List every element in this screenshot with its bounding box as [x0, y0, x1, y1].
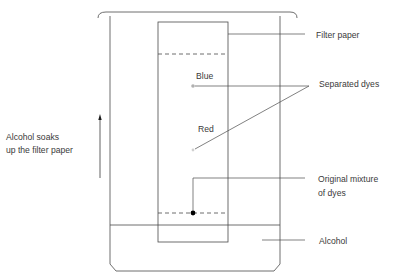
chromatography-diagram: Blue Red Filter paper Separated dyes Ori…: [0, 0, 402, 275]
red-label: Red: [198, 124, 214, 134]
beaker-rim: [98, 12, 297, 18]
blue-label: Blue: [196, 71, 213, 81]
original-mixture-leader: [193, 178, 305, 211]
filter-paper-label: Filter paper: [316, 30, 360, 40]
upward-arrow-icon: [98, 114, 101, 178]
blue-dye-spot: [191, 84, 195, 88]
original-mixture-spot: [191, 211, 196, 216]
alcohol-label: Alcohol: [319, 236, 347, 246]
original-mixture-label-line1: Original mixture: [318, 174, 378, 184]
original-mixture-label-line2: of dyes: [318, 188, 346, 198]
beaker: [98, 12, 297, 271]
red-dye-spot: [192, 149, 195, 152]
separated-dyes-label: Separated dyes: [319, 79, 379, 89]
soak-label-line1: Alcohol soaks: [6, 132, 59, 142]
soak-label-line2: up the filter paper: [6, 145, 73, 155]
red-dye-leader: [195, 86, 309, 149]
beaker-bottom: [110, 264, 280, 271]
leader-lines: [193, 34, 309, 240]
